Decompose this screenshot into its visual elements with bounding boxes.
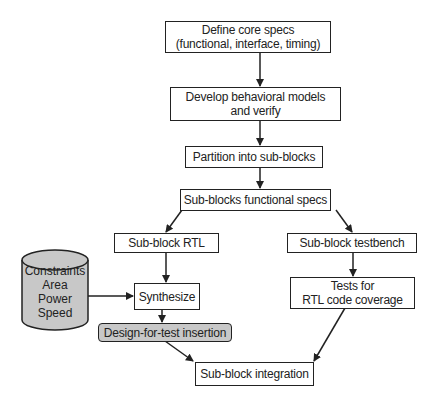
node-label: and verify <box>230 104 280 118</box>
node-label: Design-for-test insertion <box>104 326 226 340</box>
edge-funcspecs-to-testbench <box>336 210 352 232</box>
node-label: Synthesize <box>139 290 196 304</box>
constraint-speed: Speed <box>22 306 88 320</box>
node-synthesize: Synthesize <box>134 283 200 310</box>
node-label: Sub-block RTL <box>128 236 205 250</box>
node-behavioral-models: Develop behavioral models and verify <box>170 87 341 121</box>
flowchart-canvas: Define core specs (functional, interface… <box>0 0 423 407</box>
node-sub-block-rtl: Sub-block RTL <box>114 233 219 253</box>
node-partition: Partition into sub-blocks <box>185 146 323 168</box>
node-label: RTL code coverage <box>302 293 403 307</box>
node-tests-coverage: Tests for RTL code coverage <box>290 277 415 309</box>
node-design-for-test: Design-for-test insertion <box>98 323 232 342</box>
edge-funcspecs-to-rtl <box>166 210 182 232</box>
node-label: (functional, interface, timing) <box>176 37 321 51</box>
node-sub-block-testbench: Sub-block testbench <box>287 233 417 253</box>
edge-coverage-to-integration <box>314 308 345 361</box>
node-label: Sub-block testbench <box>300 236 405 250</box>
constraints-title: Constraints <box>22 264 88 278</box>
node-label: Sub-blocks functional specs <box>184 193 327 207</box>
node-label: Sub-block integration <box>200 367 309 381</box>
node-label: Partition into sub-blocks <box>193 150 315 164</box>
node-label: Develop behavioral models <box>186 90 326 104</box>
constraint-area: Area <box>22 278 88 292</box>
node-label: Define core specs <box>202 23 295 37</box>
node-functional-specs: Sub-blocks functional specs <box>180 189 331 211</box>
constraints-label: Constraints Area Power Speed <box>22 264 88 320</box>
constraint-power: Power <box>22 292 88 306</box>
node-label: Tests for <box>331 279 375 293</box>
node-define-core-specs: Define core specs (functional, interface… <box>165 21 331 53</box>
node-sub-block-integration: Sub-block integration <box>195 362 314 386</box>
edge-dft-to-integration <box>165 341 193 361</box>
